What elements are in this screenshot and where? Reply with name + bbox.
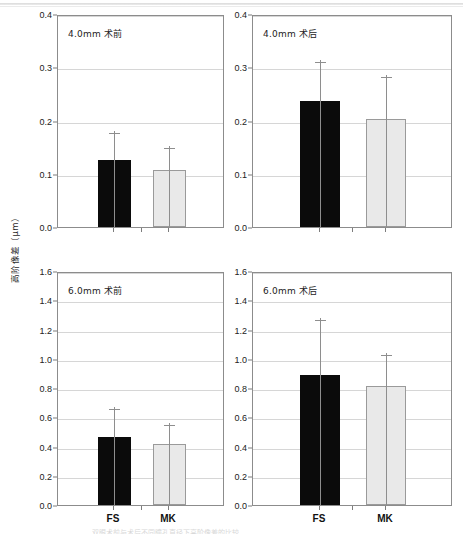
- y-tick-label: 0.4: [39, 10, 52, 20]
- y-axis-label: 高阶像差（μm）: [8, 188, 20, 308]
- x-tick-label-fs: FS: [299, 513, 339, 524]
- x-tick-mark-center: [141, 506, 142, 510]
- error-bar-fs: [114, 131, 115, 227]
- y-tick-label: 1.0: [234, 355, 247, 365]
- y-tick-label: 1.0: [39, 355, 52, 365]
- y-tick-label: 0.2: [234, 117, 247, 127]
- gridline: [58, 16, 223, 17]
- x-tick-mark-center: [141, 228, 142, 232]
- gridline: [58, 123, 223, 124]
- gridline: [253, 123, 451, 124]
- y-tick-mark: [53, 330, 57, 331]
- y-tick-mark: [248, 447, 252, 448]
- gridline: [58, 302, 223, 303]
- error-bar-mk: [386, 75, 387, 227]
- error-bar-mk: [169, 146, 170, 227]
- y-tick-mark: [248, 272, 252, 273]
- y-tick-label: 0.4: [234, 443, 247, 453]
- figure-caption: 双眼术前与术后不同瞳孔直径下高阶像差的比较: [92, 527, 458, 534]
- y-tick-mark: [248, 68, 252, 69]
- y-tick-label: 0.6: [234, 413, 247, 423]
- error-bar-fs: [320, 60, 321, 227]
- y-tick-mark: [53, 272, 57, 273]
- y-tick-mark: [53, 447, 57, 448]
- error-bar-cap-fs: [315, 320, 326, 321]
- y-tick-mark: [248, 174, 252, 175]
- y-tick-label: 0.1: [39, 170, 52, 180]
- y-tick-label: 0.0: [234, 501, 247, 511]
- y-tick-label: 1.4: [234, 296, 247, 306]
- y-tick-mark: [53, 476, 57, 477]
- gridline: [253, 419, 451, 420]
- x-tick-mark: [319, 228, 320, 232]
- panel-title: 6.0mm 术前: [68, 284, 122, 297]
- y-tick-label: 0.8: [234, 384, 247, 394]
- y-tick-label: 0.1: [234, 170, 247, 180]
- error-bar-cap-fs: [315, 62, 326, 63]
- y-tick-mark: [248, 301, 252, 302]
- gridline: [58, 332, 223, 333]
- x-tick-mark-center: [352, 506, 353, 510]
- y-tick-mark: [53, 301, 57, 302]
- figure-root: 高阶像差（μm） 0.00.10.20.30.44.0mm 术前0.00.10.…: [0, 0, 463, 534]
- y-tick-mark: [53, 228, 57, 229]
- x-tick-mark: [113, 228, 114, 232]
- y-tick-label: 0.0: [39, 501, 52, 511]
- y-tick-mark: [248, 15, 252, 16]
- x-tick-mark: [113, 506, 114, 510]
- x-tick-mark: [168, 228, 169, 232]
- y-tick-mark: [53, 359, 57, 360]
- y-tick-mark: [53, 418, 57, 419]
- y-tick-mark: [248, 418, 252, 419]
- error-bar-cap-fs: [109, 409, 120, 410]
- error-bar-cap-mk: [164, 425, 175, 426]
- y-tick-label: 0.4: [39, 443, 52, 453]
- y-tick-label: 0.0: [234, 223, 247, 233]
- chart-panel-bottom-left: 0.00.20.40.60.81.01.21.41.66.0mm 术前FSMK: [57, 272, 224, 532]
- y-tick-label: 0.6: [39, 413, 52, 423]
- plot-area: [57, 15, 224, 228]
- gridline: [58, 361, 223, 362]
- x-tick-label-mk: MK: [148, 513, 188, 524]
- y-tick-label: 0.2: [39, 472, 52, 482]
- y-tick-mark: [53, 15, 57, 16]
- error-bar-mk: [169, 423, 170, 505]
- y-tick-mark: [248, 506, 252, 507]
- gridline: [58, 176, 223, 177]
- x-tick-mark: [168, 506, 169, 510]
- x-tick-mark: [319, 506, 320, 510]
- gridline: [58, 478, 223, 479]
- y-tick-mark: [248, 359, 252, 360]
- error-bar-cap-mk: [381, 355, 392, 356]
- panel-title: 4.0mm 术后: [263, 27, 317, 40]
- error-bar-fs: [114, 407, 115, 505]
- plot-area: [252, 15, 452, 228]
- y-tick-mark: [53, 389, 57, 390]
- gridline: [253, 332, 451, 333]
- y-tick-mark: [248, 389, 252, 390]
- gridline: [253, 390, 451, 391]
- gridline: [58, 273, 223, 274]
- gridline: [58, 390, 223, 391]
- y-tick-label: 0.3: [234, 63, 247, 73]
- plot-area: [252, 272, 452, 506]
- y-tick-mark: [248, 330, 252, 331]
- x-tick-label-mk: MK: [365, 513, 405, 524]
- y-tick-label: 1.2: [39, 326, 52, 336]
- y-tick-label: 1.6: [39, 267, 52, 277]
- gridline: [253, 478, 451, 479]
- y-tick-label: 1.4: [39, 296, 52, 306]
- error-bar-cap-mk: [381, 77, 392, 78]
- error-bar-mk: [386, 353, 387, 505]
- y-tick-mark: [53, 121, 57, 122]
- y-tick-label: 0.4: [234, 10, 247, 20]
- gridline: [253, 69, 451, 70]
- chart-panel-top-left: 0.00.10.20.30.44.0mm 术前: [57, 15, 224, 254]
- scan-artifact-line-secondary: [0, 6, 463, 7]
- gridline: [253, 273, 451, 274]
- y-tick-label: 0.2: [234, 472, 247, 482]
- y-tick-mark: [53, 174, 57, 175]
- error-bar-cap-fs: [109, 133, 120, 134]
- chart-panel-top-right: 0.00.10.20.30.44.0mm 术后: [252, 15, 452, 254]
- error-bar-cap-mk: [164, 148, 175, 149]
